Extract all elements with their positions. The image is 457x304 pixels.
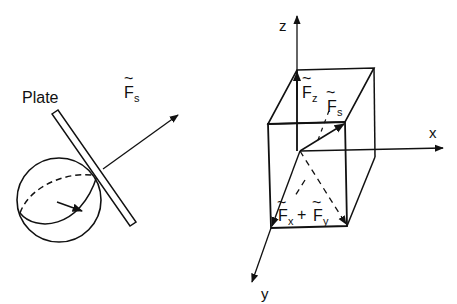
svg-text:s: s <box>134 92 140 104</box>
left-panel-sphere-plate: Plate ~ F s <box>17 70 178 242</box>
right-panel-3d-box: z x y ~ F z ~ F s ~ F x + ~ F y <box>252 16 443 302</box>
sphere-equator-solid <box>20 176 97 224</box>
dashed-fy-guide <box>300 151 346 224</box>
force-fs-arrow <box>103 115 178 169</box>
force-fz-label: ~ F z <box>302 70 318 104</box>
dashed-guide <box>295 180 305 196</box>
rotation-arrow-icon <box>57 202 82 211</box>
svg-text:F: F <box>302 84 312 101</box>
svg-text:+: + <box>297 206 306 223</box>
sphere-equator-dashed <box>20 175 97 213</box>
z-axis-label: z <box>279 17 287 34</box>
svg-text:F: F <box>278 207 288 224</box>
svg-text:y: y <box>323 215 329 227</box>
box-edge <box>347 157 375 226</box>
plate-label: Plate <box>22 89 59 106</box>
svg-text:s: s <box>337 106 343 118</box>
plate-shape <box>52 110 136 226</box>
y-axis-label: y <box>261 285 269 302</box>
force-fs-label: ~ F s <box>124 70 140 104</box>
svg-text:z: z <box>312 92 318 104</box>
x-axis-label: x <box>429 124 437 141</box>
force-decomposition-diagram: Plate ~ F s z <box>0 0 457 304</box>
sphere-outline <box>17 158 101 242</box>
svg-text:F: F <box>313 207 323 224</box>
force-fs-label-3d: ~ F s <box>326 84 343 118</box>
svg-text:F: F <box>327 98 337 115</box>
x-axis <box>300 148 443 151</box>
y-axis <box>252 228 271 282</box>
svg-text:F: F <box>124 84 134 101</box>
svg-text:x: x <box>288 215 294 227</box>
force-fx-plus-fy-label: ~ F x + ~ F y <box>277 194 329 227</box>
box-top-face <box>268 68 374 124</box>
box-edge <box>374 68 375 157</box>
